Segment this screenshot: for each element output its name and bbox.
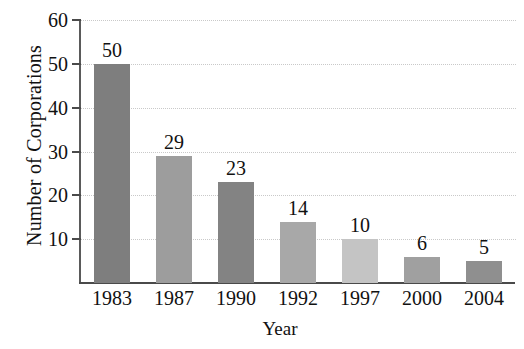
y-axis-tick xyxy=(72,151,81,153)
y-axis-tick-label: 30 xyxy=(10,142,68,162)
x-axis-tick-label: 2004 xyxy=(449,288,519,308)
x-axis-tick-label: 1983 xyxy=(77,288,147,308)
y-axis-tick-label: 40 xyxy=(10,98,68,118)
x-axis-title-text: Year xyxy=(262,318,297,339)
y-axis-tick xyxy=(72,107,81,109)
bar-chart-figure: Number of Corporations 102030405060 5029… xyxy=(0,0,524,349)
y-axis-tick-label: 50 xyxy=(10,54,68,74)
x-axis-tick-label: 2000 xyxy=(387,288,457,308)
y-axis-tick xyxy=(72,19,81,21)
x-axis-tick-label: 1992 xyxy=(263,288,333,308)
x-axis-tick-labels: 1983198719901992199720002004 xyxy=(81,0,515,349)
x-axis-tick-label: 1990 xyxy=(201,288,271,308)
y-axis-tick-label: 20 xyxy=(10,185,68,205)
y-axis-tick xyxy=(72,194,81,196)
y-axis-tick xyxy=(72,63,81,65)
x-axis-tick-label: 1987 xyxy=(139,288,209,308)
y-axis-tick-labels: 102030405060 xyxy=(0,0,68,349)
x-axis-title: Year xyxy=(0,318,524,340)
y-axis-tick xyxy=(72,238,81,240)
y-axis-tick-label: 60 xyxy=(10,10,68,30)
x-axis-tick-label: 1997 xyxy=(325,288,395,308)
y-axis-tick-label: 10 xyxy=(10,229,68,249)
